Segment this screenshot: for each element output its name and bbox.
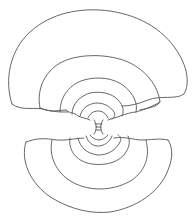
center-waist: [94, 120, 103, 134]
upper-lobes: [9, 10, 188, 120]
lower-lobe-1: [24, 140, 172, 212]
lower-lobe-5: [86, 136, 112, 146]
upper-lobe-4: [72, 92, 123, 116]
upper-lobe-1: [9, 10, 188, 106]
upper-lobe-3: [60, 78, 137, 112]
radiation-pattern-diagram: [0, 0, 196, 221]
upper-lobe-1-base: [12, 104, 66, 111]
lower-lobe-6: [90, 135, 108, 140]
lower-lobes: [24, 135, 172, 212]
upper-lobe-6: [88, 111, 108, 118]
